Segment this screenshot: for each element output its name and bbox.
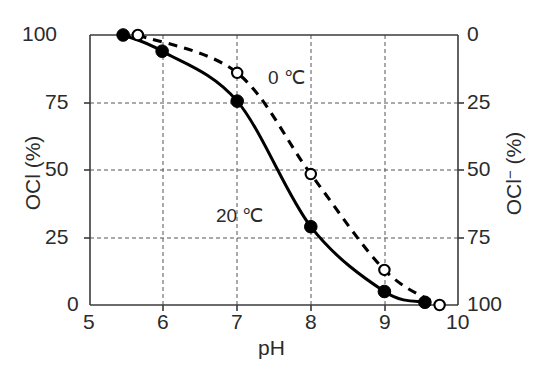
- ytick-label-left-0: 0: [67, 292, 79, 316]
- ytick-label-right-100: 100: [467, 292, 502, 316]
- xtick-label-6: 6: [157, 310, 169, 334]
- ytick-label-left-100: 100: [22, 22, 57, 46]
- ytick-marks-right: [458, 103, 464, 238]
- ytick-label-right-0: 0: [467, 22, 479, 46]
- ytick-label-right-75: 75: [467, 225, 490, 249]
- ytick-label-left-75: 75: [45, 90, 68, 114]
- y-axis-title-left-main: OCl: [21, 174, 44, 210]
- xtick-label-7: 7: [231, 310, 243, 334]
- y-axis-title-right-minus-superscript: −: [501, 170, 518, 179]
- ytick-marks-left: [84, 103, 90, 238]
- ytick-label-left-25: 25: [45, 225, 68, 249]
- series-annotation-20c: 20 ℃: [216, 204, 263, 227]
- y-axis-title-left-unit: (%): [21, 136, 44, 169]
- xtick-label-5: 5: [83, 310, 95, 334]
- x-axis-title: pH: [258, 336, 285, 360]
- chart-figure: 100 75 50 25 0 0 25 50 75 100 5 6 7 8 9 …: [0, 0, 543, 372]
- grid-horizontal: [90, 103, 458, 238]
- ytick-label-right-50: 50: [467, 157, 490, 181]
- y-axis-title-left: OCl (%): [21, 117, 45, 229]
- y-axis-title-right-unit: (%): [502, 132, 525, 165]
- series-annotation-0c: 0 ℃: [268, 66, 305, 89]
- ytick-label-right-25: 25: [467, 90, 490, 114]
- xtick-label-9: 9: [379, 310, 391, 334]
- y-axis-title-right-main: OCl: [502, 179, 525, 215]
- ytick-label-left-50: 50: [45, 157, 68, 181]
- xtick-label-8: 8: [305, 310, 317, 334]
- xtick-label-10: 10: [446, 310, 469, 334]
- xtick-marks: [163, 305, 385, 311]
- y-axis-title-right: OCl− (%): [501, 113, 526, 235]
